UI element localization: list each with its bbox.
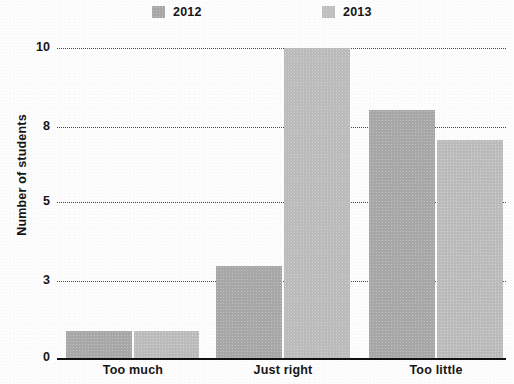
bar-too-little-2013 [437, 140, 503, 358]
x-category-label-just-right: Just right [223, 363, 343, 377]
y-axis-title: Number of students [15, 75, 29, 275]
x-category-label-too-little: Too little [376, 363, 496, 377]
bar-just-right-2012 [216, 266, 282, 358]
gridline-8 [57, 127, 506, 128]
plot-area: 10 8 5 3 0 Too much Just right Too littl [0, 0, 514, 384]
y-tick-label-5: 5 [26, 194, 50, 208]
y-tick-label-0: 0 [26, 350, 50, 364]
y-tick-label-8: 8 [26, 119, 50, 133]
x-axis-line [57, 358, 506, 360]
bar-too-little-2012 [369, 110, 435, 358]
bar-too-much-2013 [134, 331, 199, 358]
x-category-label-too-much: Too much [73, 363, 193, 377]
bar-too-much-2012 [66, 331, 132, 358]
bar-just-right-2013 [284, 48, 350, 358]
y-tick-label-3: 3 [26, 273, 50, 287]
y-tick-label-10: 10 [26, 40, 50, 54]
bar-chart-figure: 2012 2013 10 8 5 3 0 [0, 0, 514, 384]
gridline-10 [57, 48, 506, 49]
